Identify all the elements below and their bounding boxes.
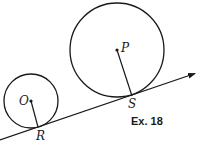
example-caption: Ex. 18 xyxy=(131,115,163,127)
label-s: S xyxy=(128,97,136,111)
label-p: P xyxy=(120,41,130,55)
radius-or xyxy=(31,101,38,127)
radius-ps xyxy=(117,50,132,96)
label-r: R xyxy=(35,129,45,141)
common-tangent-line xyxy=(0,74,195,141)
tangent-circles-diagram: O R P S Ex. 18 xyxy=(0,0,198,141)
label-o: O xyxy=(19,94,29,108)
